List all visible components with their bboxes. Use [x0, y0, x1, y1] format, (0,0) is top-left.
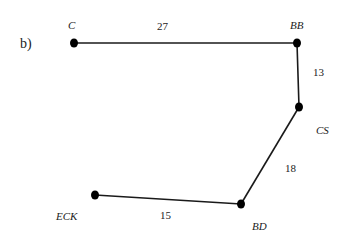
nodes [70, 39, 303, 209]
edge-cs-bd [241, 107, 299, 204]
node-label: BB [290, 19, 304, 31]
edge-weight: 13 [313, 66, 325, 78]
node-label: CS [316, 124, 329, 136]
edge-weight: 27 [157, 20, 169, 32]
edge-weight: 18 [285, 162, 297, 174]
edge-weights: 27131815 [157, 20, 325, 221]
node-c [70, 39, 78, 48]
node-label: ECK [55, 210, 78, 222]
panel-label: b) [20, 36, 32, 52]
edge-bb-cs [297, 43, 299, 107]
edge-bd-eck [95, 195, 241, 204]
edges [74, 43, 299, 204]
node-label: C [68, 19, 76, 31]
node-bb [293, 39, 301, 48]
node-cs [295, 103, 303, 112]
node-label: BD [252, 220, 267, 232]
node-bd [237, 200, 245, 209]
graph-diagram: b) 27131815 CBBCSBDECK [0, 0, 349, 248]
node-eck [91, 191, 99, 200]
edge-weight: 15 [160, 209, 172, 221]
